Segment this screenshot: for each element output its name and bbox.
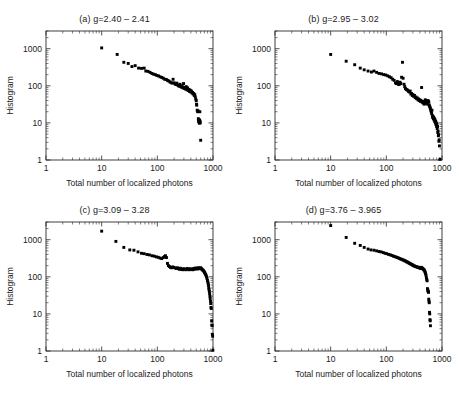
subplot-panel-a: (a) g=2.40 – 2.41 11010010001101001000To… (0, 12, 229, 209)
svg-text:Histogram: Histogram (234, 76, 244, 115)
svg-text:1000: 1000 (433, 354, 452, 364)
svg-text:1: 1 (44, 354, 49, 364)
svg-text:Histogram: Histogram (234, 267, 244, 306)
svg-text:10: 10 (97, 163, 107, 173)
svg-text:Total number of localized phot: Total number of localized photons (66, 369, 193, 379)
svg-text:1: 1 (273, 163, 278, 173)
svg-text:10: 10 (326, 163, 336, 173)
svg-text:10: 10 (262, 118, 272, 128)
svg-text:10: 10 (97, 354, 107, 364)
plot-area-b: 11010010001101001000Total number of loca… (229, 12, 458, 209)
svg-text:1: 1 (44, 163, 49, 173)
svg-text:1: 1 (37, 346, 42, 356)
svg-text:1000: 1000 (204, 354, 223, 364)
svg-text:100: 100 (28, 81, 42, 91)
svg-text:1000: 1000 (252, 235, 271, 245)
svg-text:100: 100 (28, 272, 42, 282)
svg-text:Total number of localized phot: Total number of localized photons (295, 369, 422, 379)
svg-text:10: 10 (262, 309, 272, 319)
svg-text:100: 100 (150, 163, 164, 173)
svg-text:Histogram: Histogram (5, 76, 15, 115)
svg-text:1000: 1000 (23, 44, 42, 54)
svg-text:1000: 1000 (204, 163, 223, 173)
svg-text:1: 1 (266, 155, 271, 165)
subplot-panel-d: (d) g=3.76 – 3.965 11010010001101001000T… (229, 203, 458, 394)
svg-text:100: 100 (150, 354, 164, 364)
svg-text:1000: 1000 (23, 235, 42, 245)
subplot-panel-b: (b) g=2.95 – 3.02 11010010001101001000To… (229, 12, 458, 209)
svg-text:10: 10 (33, 309, 43, 319)
svg-text:100: 100 (379, 354, 393, 364)
svg-text:1: 1 (266, 346, 271, 356)
svg-text:Histogram: Histogram (5, 267, 15, 306)
svg-text:Total number of localized phot: Total number of localized photons (295, 178, 422, 188)
svg-text:10: 10 (33, 118, 43, 128)
svg-text:100: 100 (379, 163, 393, 173)
figure-canvas: (a) g=2.40 – 2.41 11010010001101001000To… (0, 0, 459, 394)
svg-text:100: 100 (257, 272, 271, 282)
plot-area-c: 11010010001101001000Total number of loca… (0, 203, 229, 394)
svg-text:1000: 1000 (252, 44, 271, 54)
svg-text:1: 1 (37, 155, 42, 165)
cut-off-header-text (120, 0, 350, 4)
svg-text:Total number of localized phot: Total number of localized photons (66, 178, 193, 188)
subplot-panel-c: (c) g=3.09 – 3.28 11010010001101001000To… (0, 203, 229, 394)
svg-text:1: 1 (273, 354, 278, 364)
plot-area-a: 11010010001101001000Total number of loca… (0, 12, 229, 209)
svg-text:100: 100 (257, 81, 271, 91)
svg-text:10: 10 (326, 354, 336, 364)
svg-text:1000: 1000 (433, 163, 452, 173)
plot-area-d: 11010010001101001000Total number of loca… (229, 203, 458, 394)
